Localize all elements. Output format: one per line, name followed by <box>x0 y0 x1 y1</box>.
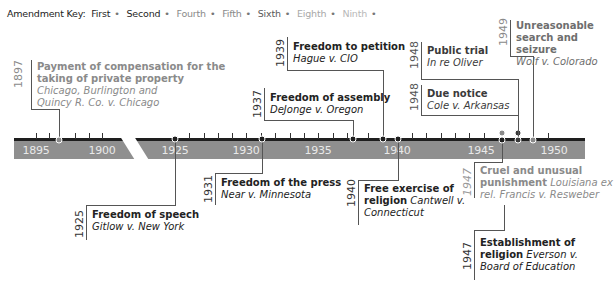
tick <box>426 133 427 139</box>
connector-line <box>383 70 384 139</box>
event-case: Hague v. CIO <box>293 53 423 65</box>
connector-line <box>474 162 503 163</box>
event-year: 1940 <box>345 179 358 207</box>
key-item-fourth: Fourth <box>177 8 206 19</box>
bullet-icon: • <box>164 8 169 19</box>
event-case: Wolf v. Colorado <box>516 56 616 68</box>
event-case: In re Oliver <box>427 57 527 69</box>
connector-line <box>264 120 354 121</box>
tick <box>333 133 334 139</box>
key-item-first: First <box>91 8 110 19</box>
connector-line <box>358 180 399 181</box>
connector-line <box>398 141 399 181</box>
key-item-second: Second <box>127 8 161 19</box>
event-year: 1947 <box>461 168 474 196</box>
event-case: DeJonge v. Oregon <box>270 104 420 116</box>
event-year: 1937 <box>251 90 264 118</box>
year-label: 1945 <box>468 144 495 157</box>
event-case: Cole v. Arkansas <box>427 100 537 112</box>
event-title: Payment of compensation for the taking o… <box>37 61 247 85</box>
key-item-fifth: Fifth <box>222 8 241 19</box>
event-year: 1931 <box>202 175 215 203</box>
event-1948-due-notice: Due notice Cole v. Arkansas <box>427 88 537 112</box>
connector-line <box>262 141 263 174</box>
year-label: 1930 <box>233 144 260 157</box>
event-dot-1947-eighth <box>499 130 506 137</box>
year-label: 1940 <box>384 144 411 157</box>
bullet-icon: • <box>330 8 335 19</box>
event-year: 1897 <box>12 60 25 88</box>
amendment-key: Amendment Key: First• Second• Fourth• Fi… <box>7 8 380 19</box>
event-case: Near v. Minnesota <box>221 189 361 201</box>
connector-line <box>215 173 216 205</box>
event-year: 1948 <box>408 83 421 111</box>
event-year: 1947 <box>461 242 474 270</box>
event-case: Chicago, Burlington and Quincy R. Co. v.… <box>37 85 177 109</box>
tick <box>89 133 90 139</box>
connector-line <box>421 42 422 80</box>
year-label: 1935 <box>305 144 332 157</box>
tick <box>232 133 233 139</box>
connector-line <box>533 56 534 139</box>
event-dot-1939 <box>380 136 387 143</box>
event-year: 1939 <box>274 39 287 67</box>
tick <box>368 133 369 139</box>
bullet-icon: • <box>371 8 376 19</box>
tick <box>218 133 219 139</box>
key-item-ninth: Ninth <box>343 8 368 19</box>
key-item-eighth: Eighth <box>297 8 326 19</box>
event-1947-cruel-punishment: Cruel and unusual punishment Louisiana e… <box>480 165 615 201</box>
tick <box>548 133 549 139</box>
bullet-icon: • <box>114 8 119 19</box>
key-item-sixth: Sixth <box>258 8 281 19</box>
event-title: Freedom of assembly <box>270 92 420 104</box>
event-1931: Freedom of the press Near v. Minnesota <box>221 177 361 201</box>
event-title: Freedom to petition <box>293 41 423 53</box>
connector-line <box>421 85 422 116</box>
bullet-icon: • <box>210 8 215 19</box>
event-dot-1931 <box>259 136 266 143</box>
connector-line <box>421 79 519 80</box>
tick <box>204 133 205 139</box>
event-year: 1948 <box>408 41 421 69</box>
event-1949: Unreasonable search and seizure Wolf v. … <box>516 20 616 68</box>
connector-line <box>358 180 359 225</box>
tick <box>347 133 348 139</box>
tick <box>49 133 50 139</box>
tick <box>484 133 485 139</box>
connector-line <box>474 162 475 198</box>
connector-line <box>215 173 263 174</box>
tick <box>412 133 413 139</box>
event-1939: Freedom to petition Hague v. CIO <box>293 41 423 65</box>
event-dot-1925 <box>172 136 179 143</box>
event-1925: Freedom of speech Gitlow v. New York <box>92 209 242 233</box>
connector-line <box>175 141 176 206</box>
event-title: Due notice <box>427 88 537 100</box>
event-1937: Freedom of assembly DeJonge v. Oregon <box>270 92 420 116</box>
event-dot-1937 <box>350 136 357 143</box>
year-label: 1950 <box>541 144 568 157</box>
event-case: Gitlow v. New York <box>92 221 242 233</box>
connector-line <box>31 109 60 110</box>
event-dot-1940 <box>395 136 402 143</box>
event-title: Freedom of the press <box>221 177 361 189</box>
event-year: 1949 <box>497 18 510 46</box>
connector-line <box>510 20 511 57</box>
event-title: Freedom of speech <box>92 209 242 221</box>
event-dot-1949 <box>530 137 537 144</box>
tick <box>304 133 305 139</box>
event-dot-1948-due-notice <box>515 137 522 144</box>
event-1947-establishment: Establishment of religion Everson v. Boa… <box>480 237 580 273</box>
tick <box>246 133 247 139</box>
connector-line <box>86 205 87 240</box>
tick <box>275 133 276 139</box>
event-1940: Free exercise of religion Cantwell v. Co… <box>364 183 469 219</box>
year-label: 1900 <box>89 144 116 157</box>
bullet-icon: • <box>246 8 251 19</box>
connector-line <box>287 70 384 71</box>
connector-line <box>59 110 60 139</box>
event-dot-1947-first <box>499 137 506 144</box>
event-dot-1897 <box>56 137 63 144</box>
connector-line <box>287 37 288 71</box>
event-1948-public-trial: Public trial In re Oliver <box>427 45 527 69</box>
